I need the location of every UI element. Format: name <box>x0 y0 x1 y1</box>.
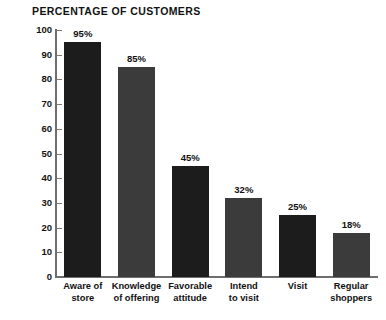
x-axis-category-label: Regularshoppers <box>318 281 384 304</box>
bar <box>172 166 209 277</box>
bar-value-label: 18% <box>321 220 381 230</box>
bar-value-label: 95% <box>53 29 113 39</box>
category-label-line: Regular <box>318 281 384 293</box>
bar <box>118 67 155 277</box>
bar <box>279 215 316 277</box>
y-axis-tick-label: 20 <box>12 223 52 233</box>
bar-value-label: 45% <box>160 153 220 163</box>
bar-value-label: 25% <box>268 202 328 212</box>
bar <box>225 198 262 277</box>
y-axis-tick-label: 30 <box>12 198 52 208</box>
y-axis-tick-label: 40 <box>12 173 52 183</box>
bar-value-label: 85% <box>107 54 167 64</box>
y-axis-tick-label: 60 <box>12 124 52 134</box>
y-axis-tick-label: 70 <box>12 99 52 109</box>
y-axis-tick-label: 0 <box>12 272 52 282</box>
plot-area: 95%85%45%32%25%18% <box>56 30 378 277</box>
chart-title: PERCENTAGE OF CUSTOMERS <box>32 5 201 17</box>
y-axis-tick-label: 50 <box>12 149 52 159</box>
y-axis-tick-label: 80 <box>12 74 52 84</box>
bar <box>333 233 370 277</box>
y-axis-tick-label: 100 <box>12 25 52 35</box>
category-label-line: shoppers <box>318 293 384 305</box>
bar-chart: PERCENTAGE OF CUSTOMERS 0102030405060708… <box>0 0 386 320</box>
category-label-line: to visit <box>211 293 277 305</box>
y-axis-tick-label: 10 <box>12 247 52 257</box>
y-axis-tick-label: 90 <box>12 50 52 60</box>
bar <box>64 42 101 277</box>
bar-value-label: 32% <box>214 185 274 195</box>
